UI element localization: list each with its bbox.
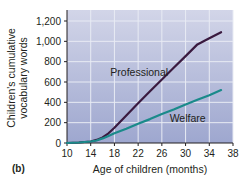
x-tick-label: 18 [109,148,121,159]
series-label-welfare: Welfare [170,112,206,124]
x-tick-label: 34 [204,148,216,159]
y-tick-label: 800 [44,56,61,67]
x-tick-label: 26 [156,148,168,159]
y-tick-label: 1,000 [36,36,61,47]
x-tick-label: 22 [133,148,145,159]
series-label-professional: Professional [110,66,168,78]
y-axis-title-line1: Children's cumulative [5,28,17,128]
y-tick-label: 200 [44,117,61,128]
y-axis-title: Children's cumulative vocabulary words [5,28,29,128]
y-tick-label: 400 [44,97,61,108]
y-axis-title-line2: vocabulary words [17,37,29,119]
y-tick-label: 600 [44,77,61,88]
y-tick-label: 1,200 [36,16,61,27]
x-tick-label: 38 [227,148,239,159]
x-axis-title: Age of children (months) [93,163,207,175]
x-tick-label: 10 [61,148,73,159]
chart: 101418222630343802004006008001,0001,200 … [0,0,242,187]
y-tick-label: 0 [55,138,61,149]
panel-label: (b) [12,163,25,174]
x-tick-label: 14 [85,148,97,159]
x-tick-label: 30 [180,148,192,159]
